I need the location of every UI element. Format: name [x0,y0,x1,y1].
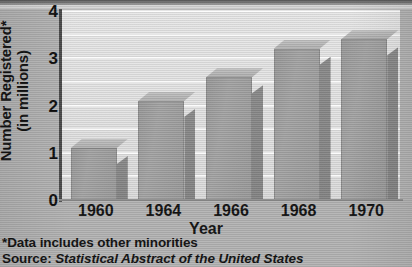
y-axis-title: Number Registered* (in millions) [0,0,37,186]
y-axis-tick-label: 1 [49,144,58,161]
bar [206,77,252,200]
y-axis-tick-label: 2 [49,97,58,114]
y-axis-tick-label: 0 [49,192,58,209]
x-axis-tick-label: 1960 [78,202,114,220]
x-axis-line [59,199,403,201]
footnote: *Data includes other minorities [2,235,412,250]
bar [71,148,117,200]
source-prefix: Source: [2,251,55,266]
source-line: Source: Statistical Abstract of the Unit… [2,251,412,266]
bar [274,49,320,200]
bar-top-face [206,68,263,77]
x-axis-tick-label: 1970 [348,202,384,220]
bar-chart: Number Registered* (in millions) 01234 1… [0,9,412,210]
x-axis-tick-label: 1968 [281,202,317,220]
bar-front-face [341,39,387,200]
bar-front-face [138,101,184,200]
bar-side-face [184,109,195,200]
bar-front-face [71,148,117,200]
bar-side-face [387,47,398,200]
bar-top-face [274,40,331,49]
x-axis-tick-label: 1966 [213,202,249,220]
bar-side-face [320,57,331,200]
source-title: Statistical Abstract of the United State… [55,251,303,266]
plot-area [62,11,400,200]
chart-notes: *Data includes other minorities Source: … [2,235,412,266]
bar-front-face [206,77,252,200]
bar-front-face [274,49,320,200]
bar-top-face [341,30,398,39]
bar [138,101,184,200]
gridline-major [62,10,400,12]
bar-side-face [117,156,128,200]
bar-side-face [252,85,263,200]
x-axis-tick-label: 1964 [146,202,182,220]
y-axis-title-line1: Number Registered* [0,21,14,162]
y-axis-tick-label: 3 [49,50,58,67]
y-axis-title-line2: (in millions) [14,0,31,186]
bar [341,39,387,200]
bar-top-face [138,92,195,101]
y-axis-tick-labels: 01234 [34,9,58,200]
y-axis-tick-label: 4 [49,3,58,20]
bar-top-face [71,139,128,148]
